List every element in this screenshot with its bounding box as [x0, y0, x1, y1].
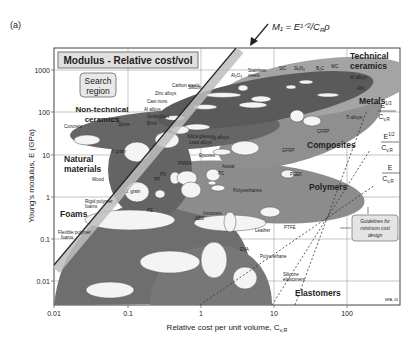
search-region-label: Search: [85, 76, 112, 86]
svg-text:minimum cost: minimum cost: [360, 226, 390, 231]
family-label-foams: Foams: [60, 209, 88, 219]
svg-text:Epoxies: Epoxies: [199, 153, 216, 158]
svg-text:1: 1: [199, 310, 203, 317]
svg-text:E: E: [388, 164, 393, 171]
x-axis-title: Relative cost per unit volume, Cv,R: [167, 323, 288, 333]
svg-text:Ti alloys: Ti alloys: [346, 115, 363, 120]
svg-text:PP: PP: [154, 177, 160, 182]
svg-text:Stone: Stone: [118, 122, 130, 127]
svg-text:elastomers: elastomers: [283, 277, 306, 282]
ashby-chart: (a): [0, 0, 420, 350]
svg-text:PC: PC: [218, 171, 225, 176]
svg-text:Concrete: Concrete: [64, 124, 83, 129]
family-label-polymers: Polymers: [309, 182, 348, 192]
family-label-composites: Composites: [307, 140, 356, 150]
family-label-nontech-ceramics: Non-technical: [76, 105, 129, 114]
svg-text:Lead alloys: Lead alloys: [189, 140, 213, 145]
svg-text:PEEK: PEEK: [290, 172, 302, 177]
svg-text:Acetal: Acetal: [222, 164, 235, 169]
svg-text:CFRP: CFRP: [317, 129, 329, 134]
family-label-elastomers: Elastomers: [295, 288, 341, 298]
svg-text:Zinc alloys: Zinc alloys: [155, 91, 177, 96]
family-label-natural: Natural: [64, 154, 93, 164]
svg-text:PMMA: PMMA: [178, 161, 192, 166]
figure-label: (a): [10, 20, 21, 30]
svg-text:Mg alloys: Mg alloys: [210, 135, 230, 140]
svg-text:⊥ grain: ⊥ grain: [125, 189, 141, 194]
svg-text:PE: PE: [147, 208, 153, 213]
svg-text:Polyurethane: Polyurethane: [260, 254, 287, 259]
svg-text:Wood: Wood: [92, 177, 104, 182]
m1-arrow: [253, 24, 268, 42]
credit: MFA, 04: [385, 298, 398, 302]
svg-text:0.1: 0.1: [123, 310, 133, 317]
svg-text:foams: foams: [85, 204, 98, 209]
svg-text:SiC: SiC: [279, 66, 287, 71]
svg-text:0.1: 0.1: [40, 236, 50, 243]
svg-text:B₄C: B₄C: [316, 66, 325, 71]
search-region-label: region: [86, 86, 110, 96]
svg-text:EVA: EVA: [240, 247, 249, 252]
svg-text:// grain: // grain: [112, 149, 126, 154]
svg-text:0.01: 0.01: [36, 278, 50, 285]
x-tick-labels: 0.01 0.1 1 10 100: [47, 310, 353, 317]
svg-text:foams: foams: [61, 235, 74, 240]
svg-text:10: 10: [270, 310, 278, 317]
svg-text:WC: WC: [331, 64, 339, 69]
svg-text:W alloys: W alloys: [350, 75, 368, 80]
svg-text:100: 100: [341, 310, 353, 317]
svg-text:ABS: ABS: [195, 216, 204, 221]
svg-text:PS: PS: [160, 172, 166, 177]
svg-text:AlN: AlN: [357, 86, 364, 91]
family-label-nontech-ceramics: ceramics: [85, 115, 120, 124]
svg-text:Silica glass: Silica glass: [187, 134, 210, 139]
svg-text:steels: steels: [248, 73, 261, 78]
svg-text:Ionomers: Ionomers: [203, 211, 223, 216]
svg-text:10: 10: [42, 152, 50, 159]
family-label-technical-ceramics: ceramics: [350, 61, 387, 71]
svg-text:Soda glass: Soda glass: [147, 114, 170, 119]
svg-text:Guidelines for: Guidelines for: [360, 219, 390, 224]
svg-text:100: 100: [38, 109, 50, 116]
family-label-technical-ceramics: Technical: [350, 51, 389, 61]
svg-text:1: 1: [46, 194, 50, 201]
y-axis-title: Young's modulus, E (GPa): [27, 129, 36, 223]
y-tick-labels: 0.01 0.1 1 10 100 1000: [34, 67, 50, 285]
m1-label: M₁ = E¹ᐟ²/CRρ: [272, 21, 330, 33]
family-label-natural: materials: [64, 164, 102, 174]
svg-text:design: design: [368, 233, 382, 238]
svg-text:PTFE: PTFE: [284, 225, 296, 230]
svg-text:Polyurethanes: Polyurethanes: [233, 188, 263, 193]
svg-text:Cast irons: Cast irons: [147, 99, 168, 104]
svg-text:Al alloys: Al alloys: [144, 107, 162, 112]
svg-text:GFRP: GFRP: [282, 148, 295, 153]
svg-text:Si₃N₄: Si₃N₄: [294, 66, 305, 71]
svg-text:0.01: 0.01: [47, 310, 61, 317]
svg-text:Leather: Leather: [255, 228, 271, 233]
svg-text:Al₂O₃: Al₂O₃: [231, 73, 242, 78]
svg-text:Silicon: Silicon: [188, 85, 202, 90]
chart-title: Modulus - Relative cost/vol: [64, 55, 193, 66]
svg-text:1000: 1000: [34, 67, 50, 74]
svg-text:Brick: Brick: [147, 121, 158, 126]
